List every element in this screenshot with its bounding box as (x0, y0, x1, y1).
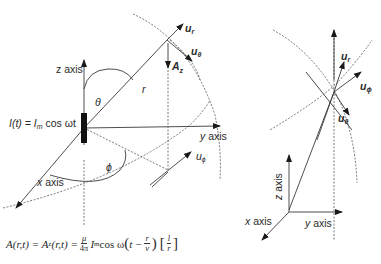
current-label: I(t) = Im cos ωt (9, 117, 76, 130)
formula-inner-t: t − (129, 238, 142, 250)
formula-lhs-rest: (r,t) = (51, 238, 77, 250)
right-u-r-arrow (334, 62, 344, 92)
left-diagram: z axis y axis x axis θ ϕ r ur uθ Az uϕ I… (3, 14, 227, 225)
x-axis-line (16, 128, 84, 208)
formula-mu-over-4pi: μ 4π (80, 234, 89, 253)
y-axis-line (84, 126, 220, 128)
u-r-label: ur (185, 22, 195, 35)
dipole-diagram: z axis y axis x axis θ ϕ r ur uθ Az uϕ I… (0, 0, 381, 264)
u-theta-arrow (167, 40, 192, 61)
right-z-axis-label: z axis (272, 173, 284, 201)
right-u-phi-label: uϕ (360, 80, 372, 94)
right-sphere-arc-2 (270, 40, 372, 130)
radius-line (84, 40, 167, 128)
y-axis-label: y axis (199, 130, 227, 142)
theta-arc (84, 69, 133, 89)
u-r-arrow (167, 24, 183, 40)
projection-radial (84, 128, 168, 170)
right-u-r-label: ur (341, 50, 351, 63)
right-y-axis-label: y axis (304, 217, 332, 229)
phi-label: ϕ (106, 161, 112, 173)
sphere-arc-outer (133, 14, 220, 180)
r-label: r (142, 83, 146, 95)
dipole-element (81, 113, 87, 143)
right-u-theta-label: uθ (338, 112, 348, 125)
formula-cos: cos ω (100, 238, 125, 250)
right-x-axis-label: x axis (244, 215, 272, 227)
theta-label: θ (95, 96, 101, 108)
formula-r-over-v: r v (144, 234, 149, 253)
formula-lhs: A(r,t) = A (6, 238, 48, 250)
right-radius-line (289, 92, 334, 210)
u-theta-label: uθ (191, 45, 201, 58)
formula-l-over-r: l r (167, 234, 171, 253)
right-radius-line-2 (317, 92, 334, 140)
u-phi-arrow (150, 152, 191, 185)
u-phi-arrow-shadow (152, 172, 168, 187)
x-axis-label: x axis (36, 176, 64, 188)
a-z-label: Az (171, 60, 184, 74)
z-axis-label: z axis (56, 63, 83, 75)
vector-potential-formula: A(r,t) = Az(r,t) = μ 4π Im cos ω ( t − r… (6, 234, 178, 253)
right-diagram: ur uϕ uθ z axis y axis x axis (244, 30, 372, 240)
u-phi-label: uϕ (196, 150, 206, 164)
right-u-phi-arrow (334, 72, 361, 92)
